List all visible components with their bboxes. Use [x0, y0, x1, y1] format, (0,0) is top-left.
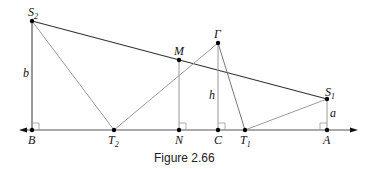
left-arrow-icon — [19, 128, 27, 133]
point-t2 — [112, 128, 116, 132]
label-n: N — [174, 133, 184, 147]
segment-s2-t2 — [32, 21, 114, 130]
label-b-point: B — [28, 133, 36, 147]
point-a — [325, 128, 329, 132]
point-n — [177, 128, 181, 132]
label-m: M — [173, 44, 185, 58]
point-t1 — [243, 128, 247, 132]
segment-gamma-t1 — [218, 43, 245, 130]
point-gamma — [216, 41, 220, 45]
figure-caption: Figure 2.66 — [154, 151, 215, 165]
label-segment-a: a — [330, 106, 336, 120]
label-s2: S2 — [28, 5, 38, 21]
figure-diagram: S2 M Γ S1 B T2 N C T1 A b h a Figure 2.6… — [0, 0, 373, 169]
label-segment-h: h — [209, 88, 215, 102]
label-gamma: Γ — [213, 27, 222, 41]
point-c — [216, 128, 220, 132]
point-b — [30, 128, 34, 132]
label-t2: T2 — [108, 133, 119, 149]
label-s1: S1 — [325, 85, 335, 101]
right-arrow-icon — [350, 128, 358, 133]
label-a-point: A — [322, 133, 331, 147]
segment-t1-s1 — [245, 99, 327, 130]
label-t1: T1 — [240, 133, 251, 149]
label-segment-b: b — [23, 66, 29, 80]
point-m — [177, 58, 181, 62]
label-c: C — [214, 133, 223, 147]
